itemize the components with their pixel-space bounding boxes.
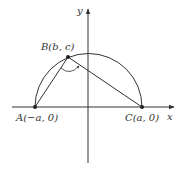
point-b <box>66 55 70 59</box>
point-a <box>33 105 37 109</box>
point-b-label: B(b, c) <box>40 41 75 52</box>
segment-bc <box>68 57 142 107</box>
angle-arc-icon <box>61 66 79 72</box>
segment-ab <box>35 57 68 107</box>
y-axis-label: y <box>76 5 83 16</box>
semicircle-diagram: y x B(b, c) A(−a, 0) C(a, 0) <box>0 0 187 171</box>
point-a-label: A(−a, 0) <box>15 112 58 123</box>
point-c <box>140 105 144 109</box>
point-c-label: C(a, 0) <box>125 112 159 123</box>
x-axis-label: x <box>167 111 173 122</box>
